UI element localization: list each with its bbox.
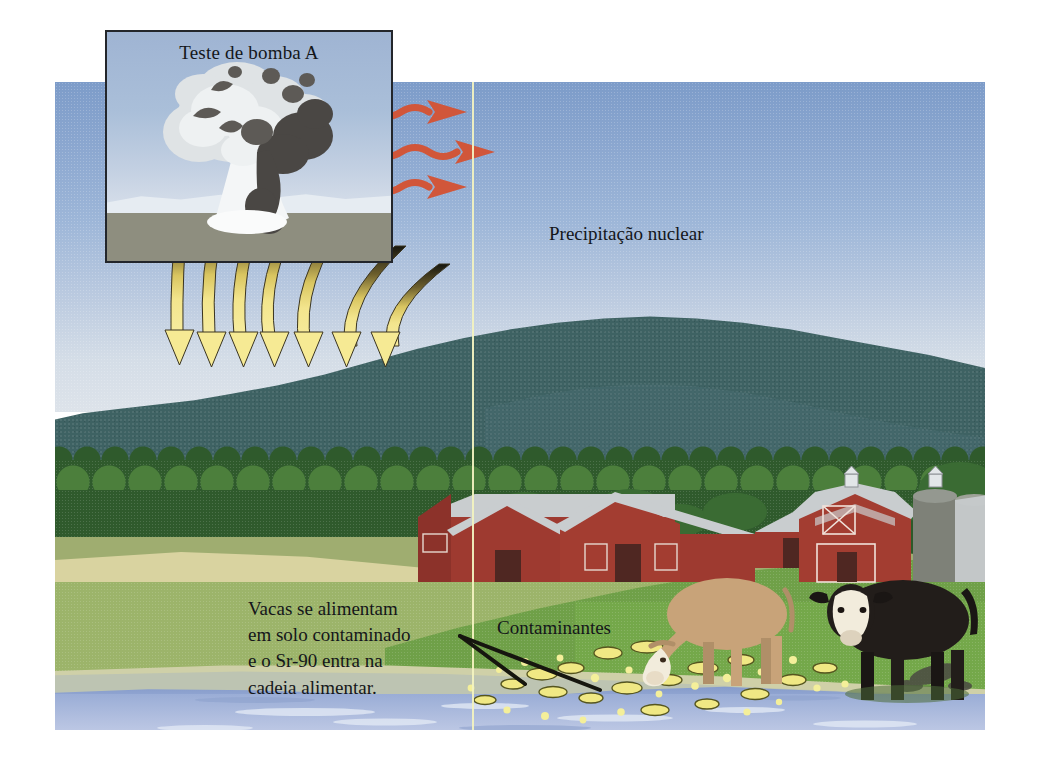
inset-haze <box>107 187 391 213</box>
contaminants-label: Contaminantes <box>497 617 611 639</box>
treeline-light <box>55 456 985 490</box>
caption-line-1: Vacas se alimentam <box>248 596 411 622</box>
inset-title: Teste de bomba A <box>107 42 391 64</box>
inset-ground <box>107 207 391 261</box>
page-gutter-line <box>472 82 474 730</box>
caption-line-2: em solo contaminado <box>248 622 411 648</box>
fallout-label: Precipitação nuclear <box>549 223 704 245</box>
caption-line-3: e o Sr-90 entra na <box>248 648 411 674</box>
caption-line-4: cadeia alimentar. <box>248 675 411 701</box>
river-water-near <box>55 694 985 730</box>
bomb-test-inset-panel: Teste de bomba A <box>105 30 393 263</box>
caption-block: Vacas se alimentam em solo contaminado e… <box>248 596 411 701</box>
